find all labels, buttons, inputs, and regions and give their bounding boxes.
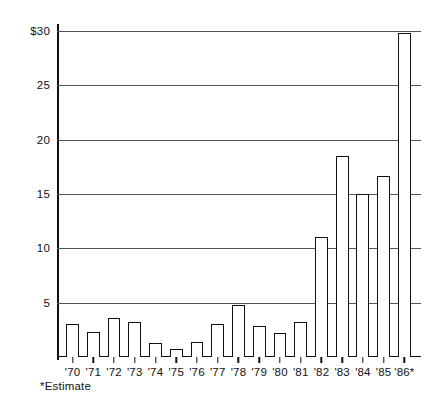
bar-75 bbox=[170, 349, 183, 357]
bar-86 bbox=[398, 33, 411, 357]
bar-83 bbox=[336, 156, 349, 357]
bars-layer bbox=[57, 31, 421, 357]
x-tick-11 bbox=[300, 357, 301, 363]
x-tick-16 bbox=[404, 357, 405, 363]
y-tick-label-10: 10 bbox=[37, 242, 50, 254]
bar-74 bbox=[149, 343, 162, 357]
plot-area: 510152025$30 '70'71'72'73'74'75'76'77'78… bbox=[57, 31, 421, 357]
x-tick-label-8: '78 bbox=[231, 366, 247, 378]
x-tick-0 bbox=[72, 357, 73, 363]
x-tick-label-12: '82 bbox=[314, 366, 330, 378]
footnote-estimate: *Estimate bbox=[40, 380, 91, 392]
bar-80 bbox=[274, 333, 287, 357]
x-tick-12 bbox=[321, 357, 322, 363]
y-tick-label-25: 25 bbox=[37, 79, 50, 91]
bar-70 bbox=[66, 324, 79, 357]
x-tick-2 bbox=[113, 357, 114, 363]
x-tick-label-9: '79 bbox=[251, 366, 267, 378]
y-tick-label-30: $30 bbox=[30, 25, 50, 37]
x-tick-label-10: '80 bbox=[272, 366, 288, 378]
bar-chart: 510152025$30 '70'71'72'73'74'75'76'77'78… bbox=[0, 0, 435, 400]
x-tick-8 bbox=[238, 357, 239, 363]
bar-73 bbox=[128, 322, 141, 357]
bar-81 bbox=[294, 322, 307, 357]
x-tick-label-15: '85 bbox=[376, 366, 392, 378]
x-tick-1 bbox=[93, 357, 94, 363]
bar-85 bbox=[377, 176, 390, 357]
x-tick-label-1: '71 bbox=[85, 366, 101, 378]
x-tick-label-7: '77 bbox=[210, 366, 226, 378]
x-tick-13 bbox=[341, 357, 342, 363]
bar-79 bbox=[253, 326, 266, 358]
x-tick-label-11: '81 bbox=[293, 366, 309, 378]
y-tick-label-5: 5 bbox=[43, 297, 50, 309]
x-tick-6 bbox=[196, 357, 197, 363]
bar-71 bbox=[87, 332, 100, 357]
bar-78 bbox=[232, 305, 245, 357]
x-tick-15 bbox=[383, 357, 384, 363]
y-tick-label-20: 20 bbox=[37, 134, 50, 146]
x-tick-label-13: '83 bbox=[334, 366, 350, 378]
y-tick-label-15: 15 bbox=[37, 188, 50, 200]
bar-84 bbox=[356, 194, 369, 357]
x-tick-7 bbox=[217, 357, 218, 363]
bar-76 bbox=[191, 342, 204, 357]
x-tick-label-0: '70 bbox=[65, 366, 81, 378]
bar-72 bbox=[108, 318, 121, 357]
bar-77 bbox=[211, 324, 224, 357]
x-tick-label-4: '74 bbox=[148, 366, 164, 378]
x-tick-14 bbox=[362, 357, 363, 363]
bar-82 bbox=[315, 237, 328, 357]
x-tick-label-6: '76 bbox=[189, 366, 205, 378]
x-tick-9 bbox=[259, 357, 260, 363]
x-tick-10 bbox=[279, 357, 280, 363]
x-tick-4 bbox=[155, 357, 156, 363]
x-tick-label-5: '75 bbox=[168, 366, 184, 378]
x-tick-label-3: '73 bbox=[127, 366, 143, 378]
x-tick-5 bbox=[176, 357, 177, 363]
x-tick-label-14: '84 bbox=[355, 366, 371, 378]
x-tick-label-16: '86* bbox=[394, 366, 414, 378]
x-tick-3 bbox=[134, 357, 135, 363]
x-tick-label-2: '72 bbox=[106, 366, 122, 378]
